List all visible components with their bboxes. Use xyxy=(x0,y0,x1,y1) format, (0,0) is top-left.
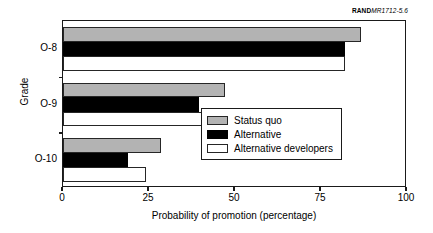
x-axis-tick xyxy=(147,187,148,191)
legend-item-label: Alternative xyxy=(234,129,281,140)
x-axis-tick-label: 75 xyxy=(314,192,325,203)
y-axis-label-o-9: O-9 xyxy=(40,98,57,109)
legend-item-label: Status quo xyxy=(234,115,282,126)
white-swatch xyxy=(207,144,228,153)
x-axis-tick-label: 0 xyxy=(59,192,65,203)
legend-item: Status quo xyxy=(207,113,336,127)
x-axis-tick xyxy=(233,187,234,191)
figure-container: RANDMR1712-5.6 Grade O-8O-9O-10 02550751… xyxy=(0,0,433,233)
x-axis-title: Probability of promotion (percentage) xyxy=(62,210,406,221)
black-swatch xyxy=(207,130,228,139)
y-axis-label-o-8: O-8 xyxy=(40,42,57,53)
source-credit: RANDMR1712-5.6 xyxy=(352,7,408,14)
legend-item: Alternative developers xyxy=(207,141,336,155)
x-axis-tick xyxy=(319,187,320,191)
y-axis-labels: O-8O-9O-10 xyxy=(0,20,433,187)
legend: Status quoAlternativeAlternative develop… xyxy=(201,108,342,160)
x-axis-tick xyxy=(405,187,406,191)
x-axis-tick-label: 100 xyxy=(398,192,415,203)
x-axis-tick-label: 25 xyxy=(142,192,153,203)
source-credit-code: MR1712-5.6 xyxy=(371,7,408,14)
legend-item: Alternative xyxy=(207,127,336,141)
gray-swatch xyxy=(207,116,228,125)
x-axis-tick xyxy=(61,187,62,191)
x-axis-tick-label: 50 xyxy=(228,192,239,203)
y-axis-label-o-10: O-10 xyxy=(35,153,57,164)
legend-item-label: Alternative developers xyxy=(234,143,333,154)
source-credit-prefix: RAND xyxy=(352,7,371,14)
